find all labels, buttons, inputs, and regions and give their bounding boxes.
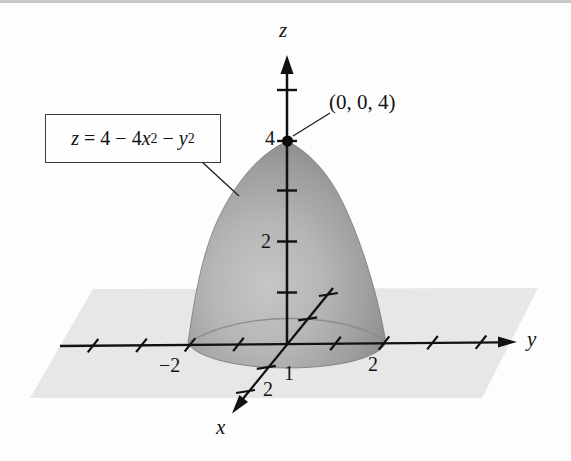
equation-x: x: [142, 127, 151, 150]
figure-canvas: [0, 0, 571, 461]
textbook-figure: z = 4 − 4x2 − y2 (0, 0, 4) z y x 4 2 −2 …: [0, 0, 571, 461]
point-label-leader-line: [293, 113, 330, 136]
y-tick-label-neg2: −2: [159, 355, 180, 375]
equation-x-exponent: 2: [151, 131, 158, 147]
y-axis-label: y: [527, 329, 536, 350]
equation-part1: = 4 − 4: [79, 127, 142, 150]
x-tick-label-2: 2: [263, 379, 273, 399]
z-axis-label: z: [279, 20, 287, 41]
x-axis-label: x: [216, 417, 225, 438]
y-tick-label-2: 2: [368, 354, 378, 374]
x-tick-label-1: 1: [284, 363, 294, 383]
vertex-point-dot: [282, 136, 293, 147]
z-tick-label-4: 4: [265, 128, 275, 148]
z-axis-arrowhead: [281, 55, 294, 74]
equation-part2: −: [158, 127, 179, 150]
equation-leader-line: [201, 161, 239, 196]
equation-y-exponent: 2: [188, 131, 195, 147]
equation-box: z = 4 − 4x2 − y2: [45, 114, 221, 163]
equation-y: y: [179, 127, 188, 150]
z-tick-label-2: 2: [261, 231, 271, 251]
point-label: (0, 0, 4): [329, 92, 396, 113]
equation-z: z: [71, 127, 79, 150]
